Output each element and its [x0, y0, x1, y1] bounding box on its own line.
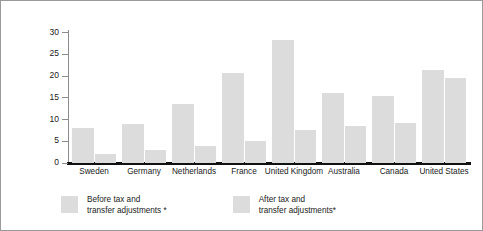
- legend-label-before-line2: transfer adjustments *: [87, 206, 167, 215]
- legend-item-after: After tax andtransfer adjustments*: [233, 195, 336, 216]
- legend-item-before: Before tax andtransfer adjustments *: [61, 195, 167, 216]
- bar: [245, 141, 267, 162]
- legend-label-after-line1: After tax and: [259, 195, 305, 204]
- legend-label-before-line1: Before tax and: [87, 195, 140, 204]
- bar: [422, 70, 444, 163]
- y-tick-label-5: 5: [39, 136, 59, 145]
- bar-group: [372, 30, 416, 163]
- bar: [445, 78, 467, 163]
- bar: [372, 96, 394, 163]
- legend-swatch-before-icon: [61, 196, 78, 213]
- y-axis-line: [68, 30, 69, 163]
- bar: [395, 123, 417, 162]
- y-tick-label-20: 20: [39, 71, 59, 80]
- bar-group: [222, 30, 266, 163]
- bar-group: [272, 30, 316, 163]
- y-tick-label-30: 30: [39, 28, 59, 37]
- bar: [345, 126, 367, 163]
- legend-swatch-after-icon: [233, 196, 250, 213]
- y-tick-label-10: 10: [39, 115, 59, 124]
- bar-group: [422, 30, 466, 163]
- bar: [272, 40, 294, 162]
- y-tick-25: [62, 54, 68, 55]
- bar: [322, 93, 344, 162]
- bar: [145, 150, 167, 163]
- bar: [72, 128, 94, 163]
- bar: [195, 146, 217, 162]
- y-tick-30: [62, 32, 68, 33]
- bar: [95, 154, 117, 163]
- bar-group: [172, 30, 216, 163]
- y-tick-5: [62, 141, 68, 142]
- y-tick-20: [62, 76, 68, 77]
- chart-legend: Before tax andtransfer adjustments * Aft…: [61, 195, 336, 216]
- legend-label-after-line2: transfer adjustments*: [259, 206, 336, 215]
- bar: [295, 130, 317, 162]
- bar: [172, 104, 194, 163]
- y-tick-0: [62, 163, 68, 164]
- legend-label-after: After tax andtransfer adjustments*: [259, 195, 336, 216]
- y-tick-label-0: 0: [39, 158, 59, 167]
- y-tick-label-25: 25: [39, 49, 59, 58]
- chart-figure: Percent of children living in poverty 05…: [0, 0, 483, 231]
- y-tick-15: [62, 97, 68, 98]
- y-tick-10: [62, 119, 68, 120]
- bar-group: [72, 30, 116, 163]
- bar: [122, 124, 144, 163]
- bar: [222, 73, 244, 163]
- legend-label-before: Before tax andtransfer adjustments *: [87, 195, 167, 216]
- category-label: United States: [404, 167, 483, 177]
- y-tick-label-15: 15: [39, 93, 59, 102]
- bar-group: [322, 30, 366, 163]
- bar-group: [122, 30, 166, 163]
